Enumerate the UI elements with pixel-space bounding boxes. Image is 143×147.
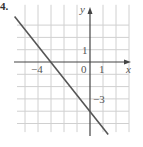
x-tick-label: 1 xyxy=(99,63,105,75)
line-series xyxy=(15,16,109,134)
y-axis-label: y xyxy=(79,3,85,15)
x-tick-label: −4 xyxy=(31,63,43,75)
y-tick-label: −3 xyxy=(93,93,105,105)
x-axis-label: x xyxy=(125,63,131,75)
y-axis-arrow-icon xyxy=(88,7,93,14)
plot-line xyxy=(15,16,109,134)
coordinate-plane: −4011−3xy xyxy=(0,0,143,147)
y-tick-label: 1 xyxy=(82,44,88,56)
x-tick-label: 0 xyxy=(81,63,87,75)
